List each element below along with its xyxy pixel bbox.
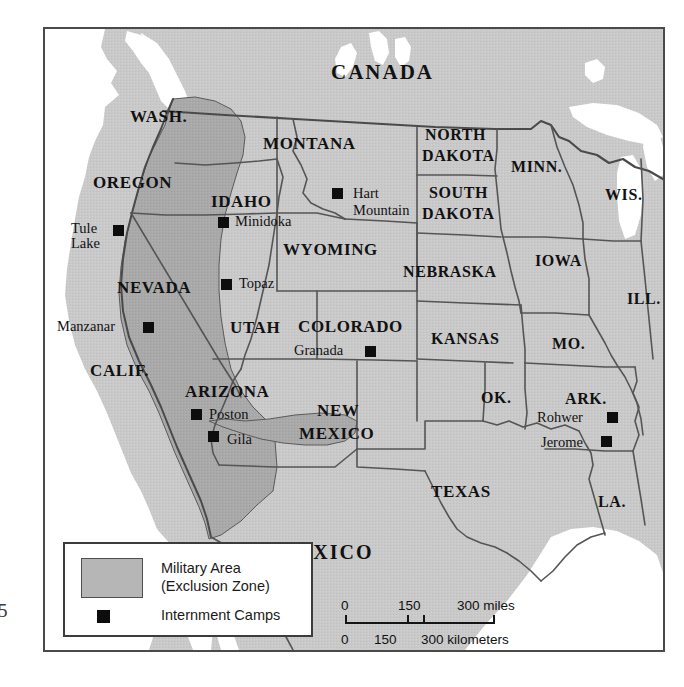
scale-bar-line	[345, 622, 495, 624]
label-state-wis: WIS.	[605, 187, 643, 203]
label-country-canada: CANADA	[331, 62, 434, 83]
label-state-south-dakota: SOUTH	[429, 185, 488, 201]
label-state-minn: MINN.	[511, 159, 562, 175]
scale-miles-300: 300 miles	[457, 598, 515, 613]
label-state-kansas: KANSAS	[431, 331, 500, 347]
label-state-ark: ARK.	[565, 391, 607, 407]
label-state-utah: UTAH	[230, 319, 280, 336]
camp-label-poston: Poston	[209, 407, 249, 422]
label-state-north-dakota: NORTH	[425, 127, 486, 143]
camp-label-jerome: Jerome	[541, 435, 583, 450]
label-state-calif: CALIF.	[90, 362, 149, 379]
camp-label-topaz: Topaz	[239, 276, 274, 291]
label-state-la: LA.	[598, 494, 626, 510]
camp-marker-topaz[interactable]	[221, 279, 232, 290]
camp-label-rohwer: Rohwer	[537, 410, 583, 425]
label-state-wash: WASH.	[130, 108, 187, 125]
camp-marker-granada[interactable]	[365, 346, 376, 357]
label-state-oregon: OREGON	[93, 174, 172, 191]
camp-label-hart-mountain: HartMountain	[353, 185, 409, 218]
camp-marker-hart-mountain[interactable]	[332, 188, 343, 199]
label-state-nebraska: NEBRASKA	[403, 264, 497, 280]
scale-tick-mi-150	[407, 615, 409, 624]
legend-swatch-internment-camp	[97, 610, 110, 623]
page-number: 5	[0, 600, 8, 622]
label-state-colorado: COLORADO	[298, 318, 403, 335]
label-state-new-mexico-2: MEXICO	[299, 425, 374, 442]
camp-marker-tule-lake[interactable]	[113, 225, 124, 236]
camp-label-minidoka: Minidoka	[235, 214, 291, 229]
camp-marker-minidoka[interactable]	[218, 217, 229, 228]
legend-label-military-area-line1: Military Area	[161, 560, 241, 576]
scale-tick-0	[345, 615, 347, 624]
label-state-montana: MONTANA	[263, 135, 356, 152]
legend-swatch-exclusion-zone	[81, 558, 143, 598]
camp-label-tule-lake: TuleLake	[71, 221, 100, 251]
scale-km-150: 150	[374, 632, 397, 647]
label-state-wyoming: WYOMING	[283, 241, 378, 258]
label-state-mo: MO.	[552, 336, 585, 352]
camp-marker-gila[interactable]	[208, 431, 219, 442]
label-state-texas: TEXAS	[431, 483, 491, 500]
camp-label-manzanar: Manzanar	[57, 319, 115, 334]
label-state-arizona: ARIZONA	[185, 383, 270, 400]
camp-marker-jerome[interactable]	[601, 436, 612, 447]
camp-marker-manzanar[interactable]	[143, 322, 154, 333]
camp-label-gila: Gila	[227, 432, 252, 447]
camp-marker-rohwer[interactable]	[607, 412, 618, 423]
scale-tick-end	[493, 615, 495, 624]
map-scale-bar: 0 150 300 miles 0 150 300 kilometers	[341, 596, 551, 658]
map-legend: Military Area (Exclusion Zone) Internmen…	[63, 542, 313, 637]
label-state-south-dakota-2: DAKOTA	[422, 206, 495, 222]
legend-label-military-area-line2: (Exclusion Zone)	[161, 578, 270, 594]
scale-miles-0: 0	[341, 598, 349, 613]
scale-miles-150: 150	[398, 598, 421, 613]
legend-label-internment-camps: Internment Camps	[161, 607, 280, 623]
map-page: 5	[0, 0, 684, 687]
camp-marker-poston[interactable]	[191, 409, 202, 420]
label-state-nevada: NEVADA	[117, 279, 191, 296]
scale-km-0: 0	[341, 632, 349, 647]
label-state-ill: ILL.	[627, 291, 661, 307]
scale-tick-km-150	[423, 615, 425, 624]
label-state-iowa: IOWA	[535, 253, 582, 269]
label-state-new-mexico: NEW	[317, 402, 359, 419]
scale-km-300: 300 kilometers	[421, 632, 509, 647]
label-state-north-dakota-2: DAKOTA	[422, 148, 495, 164]
camp-label-granada: Granada	[294, 343, 343, 358]
map-frame: CANADA MEXICO WASH. OREGON IDAHO MONTANA…	[43, 27, 665, 652]
label-state-ok: OK.	[481, 390, 512, 406]
label-state-idaho: IDAHO	[211, 193, 272, 210]
